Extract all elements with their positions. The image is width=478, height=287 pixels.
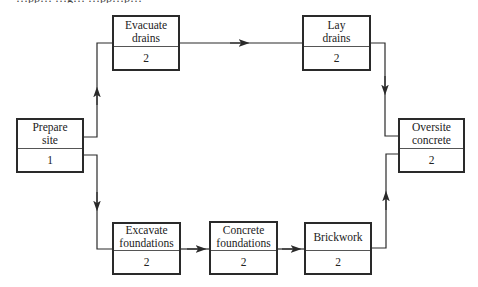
node-lay-drains: Lay drains 2: [302, 15, 371, 71]
node-duration: 2: [306, 251, 370, 273]
node-label: Lay drains: [304, 17, 369, 47]
node-evacuate-drains: Evacuate drains 2: [112, 15, 180, 71]
node-duration: 2: [114, 47, 178, 69]
node-duration: 2: [400, 149, 463, 171]
node-duration: 1: [18, 149, 82, 171]
node-label: Evacuate drains: [114, 17, 178, 47]
node-duration: 2: [114, 251, 179, 273]
edge-lay-drains-to-oversite: [370, 43, 398, 136]
node-brickwork: Brickwork 2: [304, 222, 372, 275]
edge-prepare-to-evacuate-drains: [83, 43, 112, 137]
node-duration: 2: [211, 251, 276, 273]
node-label: Oversite concrete: [400, 120, 463, 149]
node-concrete-foundations: Concrete foundations 2: [209, 221, 278, 275]
node-duration: 2: [304, 47, 369, 69]
node-oversite-concrete: Oversite concrete 2: [398, 118, 465, 173]
node-excavate-foundations: Excavate foundations 2: [112, 222, 181, 275]
node-label: Prepare site: [18, 120, 82, 149]
node-prepare-site: Prepare site 1: [16, 118, 84, 173]
edge-brickwork-to-oversite: [371, 154, 398, 248]
node-label: Concrete foundations: [211, 223, 276, 251]
node-label: Excavate foundations: [114, 224, 179, 251]
node-label: Brickwork: [306, 224, 370, 251]
